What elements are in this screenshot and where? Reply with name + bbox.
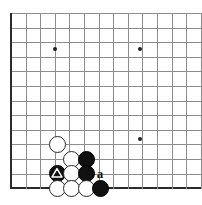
point-label-a: a — [97, 167, 104, 180]
go-board-diagram: a — [0, 0, 202, 205]
board-labels: a — [0, 0, 202, 205]
